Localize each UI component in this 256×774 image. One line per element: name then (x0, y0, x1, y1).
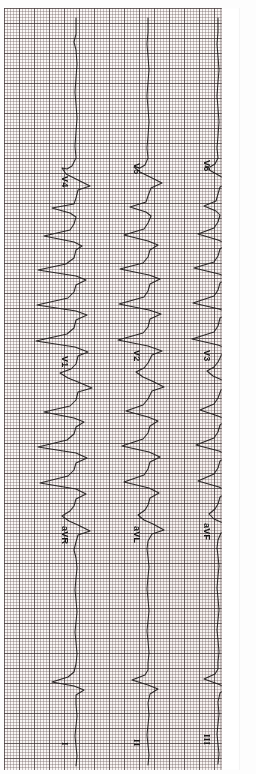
ecg-trace-layer (4, 8, 240, 770)
lead-label-ii: II (132, 739, 142, 746)
ecg-paper: V4 V1 aVR I V5 V2 aVL II V6 V3 aVF III (4, 8, 240, 770)
lead-label-v6: V6 (202, 160, 212, 171)
lead-label-v1: V1 (60, 356, 70, 367)
lead-label-avl: aVL (132, 526, 142, 543)
paper-right-margin (222, 8, 240, 770)
lead-label-avf: aVF (202, 523, 212, 540)
lead-label-iii: III (202, 734, 212, 745)
ecg-scan-image: V4 V1 aVR I V5 V2 aVL II V6 V3 aVF III (0, 0, 256, 774)
ecg-trace-channel-1 (36, 18, 92, 766)
lead-label-v2: V2 (132, 350, 142, 361)
lead-label-v5: V5 (132, 163, 142, 174)
ecg-trace-channel-2 (118, 18, 164, 765)
lead-label-avr: aVR (60, 526, 70, 544)
lead-label-i: I (60, 742, 70, 746)
lead-label-v4: V4 (60, 176, 70, 187)
lead-label-v3: V3 (202, 350, 212, 361)
